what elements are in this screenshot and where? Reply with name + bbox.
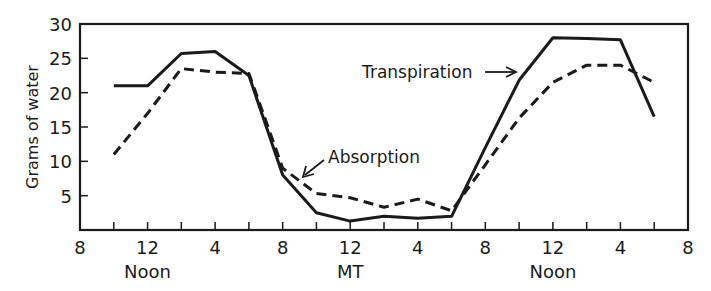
transpiration-arrow-icon — [485, 67, 516, 77]
x-tick-label: 4 — [209, 237, 220, 258]
x-tick-sublabel: Noon — [529, 261, 576, 282]
x-tick-label: 4 — [615, 237, 626, 258]
absorption-arrow-icon — [303, 160, 324, 177]
x-tick-label: 4 — [412, 237, 423, 258]
x-tick-label: 12 — [541, 237, 564, 258]
y-tick-label: 15 — [49, 117, 72, 138]
plot-frame — [80, 24, 688, 230]
line-chart: 51015202530 812Noon4812MT4812Noon48 Gram… — [0, 0, 711, 291]
x-tick-label: 8 — [277, 237, 288, 258]
x-tick-label: 8 — [74, 237, 85, 258]
absorption-annotation: Absorption — [328, 147, 420, 167]
y-axis-label: Grams of water — [23, 65, 42, 189]
y-tick-label: 10 — [49, 151, 72, 172]
y-tick-label: 5 — [61, 186, 72, 207]
x-tick-label: 8 — [682, 237, 693, 258]
y-tick-label: 25 — [49, 48, 72, 69]
x-tick-label: 8 — [480, 237, 491, 258]
x-tick-sublabel: Noon — [124, 261, 171, 282]
x-tick-label: 12 — [136, 237, 159, 258]
y-tick-label: 20 — [49, 83, 72, 104]
absorption-series-line — [114, 65, 654, 211]
x-tick-sublabel: MT — [337, 261, 365, 282]
x-tick-label: 12 — [339, 237, 362, 258]
y-axis-ticks: 51015202530 — [49, 14, 88, 207]
y-tick-label: 30 — [49, 14, 72, 35]
transpiration-annotation: Transpiration — [361, 62, 472, 82]
